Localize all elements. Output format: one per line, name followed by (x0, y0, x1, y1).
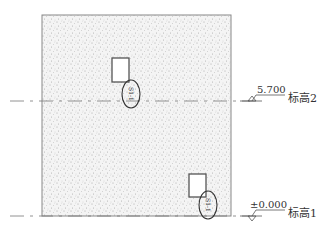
opening-upper-tag: S1-1 (128, 87, 135, 101)
level-2-elevation: 5.700 (257, 84, 286, 95)
level-2-marker (240, 95, 285, 101)
opening-lower-tag: S1-1 (205, 198, 212, 212)
level-1-elevation: ±0.000 (250, 199, 287, 210)
level-1-name: 标高1 (288, 204, 317, 220)
level-1-marker (240, 210, 285, 221)
level-2-name: 标高2 (288, 89, 317, 105)
opening-upper (112, 58, 129, 82)
